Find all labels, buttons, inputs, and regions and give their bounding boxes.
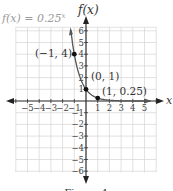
x-tick-label: 3 <box>118 103 123 113</box>
x-tick-label: −3 <box>45 103 58 113</box>
y-tick-label: −3 <box>71 131 84 141</box>
curve-arrow-right-icon <box>145 99 152 104</box>
x-tick-label: 1 <box>95 103 100 113</box>
x-tick-label: −2 <box>56 103 69 113</box>
y-tick-label: 5 <box>79 38 84 48</box>
y-tick-label: 6 <box>79 26 84 36</box>
point-marker <box>84 87 89 92</box>
axes <box>6 16 164 184</box>
y-tick-label: 4 <box>79 49 84 59</box>
y-tick-label: −5 <box>71 155 84 165</box>
point-label-0-1: (0, 1) <box>91 70 119 82</box>
x-tick-label: 4 <box>130 103 135 113</box>
x-tick-label: −5 <box>21 103 34 113</box>
point-marker <box>95 96 100 101</box>
y-axis-label: f(x) <box>77 3 99 17</box>
x-tick-label: 5 <box>142 103 147 113</box>
point-label-1-025: (1, 0.25) <box>102 85 147 97</box>
figure-caption: Figure 4 <box>64 187 107 191</box>
y-tick-label: 3 <box>79 61 84 71</box>
point-marker <box>72 52 77 57</box>
curve-arrow-icon <box>69 27 73 35</box>
x-tick-label: 2 <box>107 103 112 113</box>
x-tick-label: −4 <box>33 103 46 113</box>
point-label-neg1-4: (−1, 4) <box>35 47 72 59</box>
y-tick-label: −4 <box>71 143 84 153</box>
exponential-graph: −5−4−3−2−112345654321−1−2−3−4−5−6 f(x) =… <box>0 0 173 191</box>
x-axis-label: x <box>166 94 173 107</box>
y-tick-label: −2 <box>71 119 84 129</box>
y-tick-label: −1 <box>71 108 84 118</box>
y-tick-label: −6 <box>71 166 84 176</box>
function-label: f(x) = 0.25x <box>1 12 66 25</box>
